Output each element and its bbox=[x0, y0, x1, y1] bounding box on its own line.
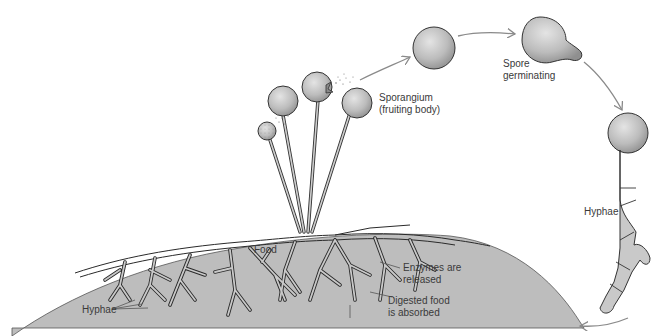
label-spore-germinating: Spore germinating bbox=[503, 58, 555, 81]
label-enzymes-released: Enzymes are released bbox=[403, 262, 461, 285]
bread-mold-life-cycle-diagram bbox=[0, 0, 664, 336]
food-substrate bbox=[12, 234, 584, 336]
arrow-sporangium-to-spore bbox=[360, 57, 410, 80]
arrow-germination-to-hyphae bbox=[584, 62, 622, 110]
label-hyphae-right: Hyphae bbox=[584, 206, 618, 218]
spore bbox=[413, 27, 455, 69]
label-digested-food-absorbed: Digested food is absorbed bbox=[388, 295, 450, 318]
sporangium-right bbox=[342, 88, 372, 118]
spore-germinating bbox=[522, 17, 582, 63]
label-sporangium: Sporangium (fruiting body) bbox=[379, 92, 440, 115]
arrow-hyphae-to-food bbox=[580, 318, 628, 326]
arrow-spore-to-germination bbox=[458, 33, 515, 36]
sporangium bbox=[268, 86, 298, 116]
label-food: Food bbox=[254, 244, 277, 256]
label-hyphae-left: Hyphae bbox=[82, 304, 116, 316]
